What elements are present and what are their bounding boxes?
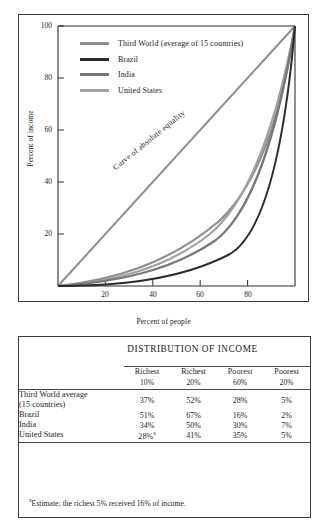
distribution-of-income-table: DISTRIBUTION OF INCOME Richest 10% bbox=[18, 336, 311, 518]
y-tick-20: 20 bbox=[30, 229, 52, 238]
y-axis-label: Percent of income bbox=[26, 79, 35, 199]
row-label-india: India bbox=[19, 420, 124, 430]
header-poorest-60-top: Poorest bbox=[228, 367, 253, 376]
table-row: India 34% 50% 30% 7% bbox=[19, 420, 310, 430]
header-richest-20: Richest 20% bbox=[170, 367, 217, 389]
figure-root: 100 80 60 40 20 20 40 60 80 Percent of i… bbox=[0, 0, 329, 528]
cell-third-world-poorest-60: 28% bbox=[217, 390, 264, 411]
lorenz-curve-chart: 100 80 60 40 20 20 40 60 80 Percent of i… bbox=[18, 14, 311, 314]
x-tick-80: 80 bbox=[236, 290, 260, 299]
legend-label-united-states: United States bbox=[118, 86, 162, 95]
legend-item-brazil: Brazil bbox=[80, 52, 243, 68]
cell-us-r10-value: 28% bbox=[138, 432, 153, 441]
y-axis-ticks bbox=[58, 26, 64, 234]
footnote-marker-ref: a bbox=[153, 430, 156, 436]
header-richest-10: Richest 10% bbox=[124, 367, 171, 389]
legend-swatch-brazil bbox=[80, 58, 109, 61]
cell-india-richest-20: 50% bbox=[170, 420, 217, 430]
cell-third-world-richest-10: 37% bbox=[124, 390, 171, 411]
legend-item-india: India bbox=[80, 67, 243, 83]
cell-third-world-richest-20: 52% bbox=[170, 390, 217, 411]
table-header-row: Richest 10% Richest 20% Poorest 60% Poor… bbox=[19, 367, 310, 389]
legend-swatch-united-states bbox=[80, 89, 109, 92]
legend-label-third-world: Third World (average of 15 countries) bbox=[118, 39, 243, 48]
cell-united-states-poorest-20: 5% bbox=[263, 430, 310, 441]
legend-item-united-states: United States bbox=[80, 83, 243, 99]
x-tick-40: 40 bbox=[141, 290, 165, 299]
legend-swatch-third-world bbox=[80, 42, 109, 45]
header-richest-10-top: Richest bbox=[135, 367, 160, 376]
x-tick-20: 20 bbox=[93, 290, 117, 299]
row-label-third-world: Third World average (15 countries) bbox=[19, 390, 124, 411]
cell-united-states-richest-20: 41% bbox=[170, 430, 217, 441]
cell-india-poorest-60: 30% bbox=[217, 420, 264, 430]
header-poorest-60-bottom: 60% bbox=[233, 378, 247, 387]
cell-brazil-richest-20: 67% bbox=[170, 410, 217, 420]
income-distribution-grid: Richest 10% Richest 20% Poorest 60% Poor… bbox=[19, 365, 310, 443]
chart-legend: Third World (average of 15 countries) Br… bbox=[80, 36, 243, 98]
table-row: Brazil 51% 67% 16% 2% bbox=[19, 410, 310, 420]
x-tick-60: 60 bbox=[188, 290, 212, 299]
header-richest-10-bottom: 10% bbox=[140, 378, 154, 387]
y-tick-100: 100 bbox=[30, 21, 52, 30]
table-rule-bottom bbox=[19, 441, 310, 443]
header-poorest-20: Poorest 20% bbox=[263, 367, 310, 389]
x-axis-label: Percent of people bbox=[18, 317, 309, 326]
row-label-united-states: United States bbox=[19, 430, 124, 441]
header-blank bbox=[19, 367, 124, 389]
header-poorest-60: Poorest 60% bbox=[217, 367, 264, 389]
cell-brazil-poorest-60: 16% bbox=[217, 410, 264, 420]
header-richest-20-bottom: 20% bbox=[186, 378, 200, 387]
legend-swatch-india bbox=[80, 73, 109, 76]
footnote-text: Estimate; the richest 5% received 16% of… bbox=[32, 499, 186, 508]
cell-united-states-poorest-60: 35% bbox=[217, 430, 264, 441]
legend-label-india: India bbox=[118, 70, 135, 79]
header-poorest-20-bottom: 20% bbox=[280, 378, 294, 387]
cell-united-states-richest-10: 28%a bbox=[124, 430, 171, 441]
table-footnote: aEstimate; the richest 5% received 16% o… bbox=[29, 497, 302, 508]
cell-brazil-richest-10: 51% bbox=[124, 410, 171, 420]
rule-line-bottom bbox=[19, 441, 310, 443]
cell-india-richest-10: 34% bbox=[124, 420, 171, 430]
row-label-brazil: Brazil bbox=[19, 410, 124, 420]
header-richest-20-top: Richest bbox=[181, 367, 206, 376]
cell-brazil-poorest-20: 2% bbox=[263, 410, 310, 420]
cell-india-poorest-20: 7% bbox=[263, 420, 310, 430]
legend-item-third-world: Third World (average of 15 countries) bbox=[80, 36, 243, 52]
table-row: United States 28%a 41% 35% 5% bbox=[19, 430, 310, 441]
header-poorest-20-top: Poorest bbox=[274, 367, 299, 376]
table-title: DISTRIBUTION OF INCOME bbox=[19, 344, 310, 354]
cell-third-world-poorest-20: 5% bbox=[263, 390, 310, 411]
table-row: Third World average (15 countries) 37% 5… bbox=[19, 390, 310, 411]
legend-label-brazil: Brazil bbox=[118, 55, 138, 64]
